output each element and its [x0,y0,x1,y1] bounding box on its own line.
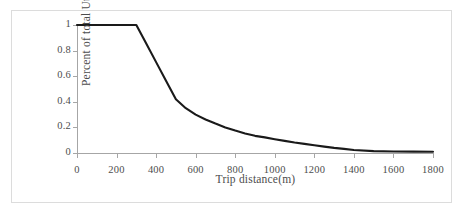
x-tick-mark [354,154,355,158]
y-tick-label: 0.6 [23,70,71,81]
y-tick-label-container: 0.4 [19,96,71,108]
y-tick-label-container: 0.8 [19,45,71,57]
x-axis-line [77,153,434,154]
data-series-line [77,25,433,153]
x-tick-mark [393,154,394,158]
y-tick-label: 0.2 [23,121,71,132]
x-tick-mark [275,154,276,158]
figure-frame: 00.20.40.60.81 0200400600800100012001400… [11,10,452,203]
x-tick-mark [235,154,236,158]
y-tick-label-container: 1 [19,19,71,31]
y-tick-label-container: 0.6 [19,70,71,82]
x-tick-mark [433,154,434,158]
plot-area [77,25,433,153]
x-tick-mark [117,154,118,158]
y-tick-label: 0 [23,147,71,158]
x-tick-mark [77,154,78,158]
x-tick-mark [156,154,157,158]
y-axis-title: Percent of total Utility [79,0,93,97]
x-tick-mark [196,154,197,158]
x-tick-mark [314,154,315,158]
y-tick-label: 0.8 [23,45,71,56]
chart-surface: 00.20.40.60.81 0200400600800100012001400… [12,11,451,202]
y-tick-label-container: 0 [19,147,71,159]
y-tick-label-container: 0.2 [19,121,71,133]
y-axis-title-container: Percent of total Utility [79,0,93,97]
y-tick-label: 1 [23,19,71,30]
x-axis-title: Trip distance(m) [77,173,434,185]
y-tick-label: 0.4 [23,96,71,107]
